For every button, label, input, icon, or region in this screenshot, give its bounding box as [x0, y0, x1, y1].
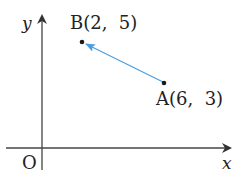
x-axis-label: x	[222, 155, 232, 172]
y-axis-label: y	[22, 15, 32, 32]
point-a-dot	[162, 81, 167, 86]
origin-label: O	[22, 154, 37, 172]
point-b-dot	[80, 40, 85, 45]
point-b-label: B(2, 5)	[70, 14, 137, 32]
vector-ab-arrow	[86, 44, 163, 82]
coordinate-diagram: y B(2, 5) A(6, 3) O x	[0, 0, 250, 191]
point-a-label: A(6, 3)	[156, 90, 223, 108]
